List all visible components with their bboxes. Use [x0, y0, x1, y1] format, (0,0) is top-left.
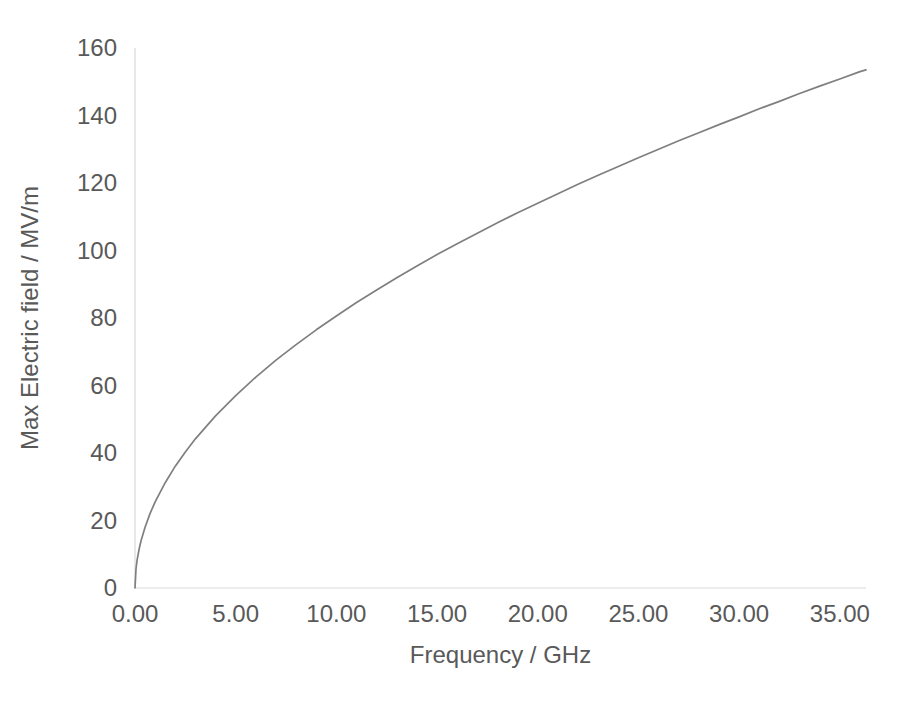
y-axis-title: Max Electric field / MV/m [16, 186, 43, 450]
x-axis-tick-label: 0.00 [112, 600, 159, 627]
y-axis-tick-label: 100 [77, 237, 117, 264]
x-axis-tick-label: 30.00 [709, 600, 769, 627]
x-axis-title: Frequency / GHz [410, 641, 591, 668]
y-axis-tick-label: 40 [90, 439, 117, 466]
x-axis-tick-label: 15.00 [407, 600, 467, 627]
x-axis-tick-label: 20.00 [508, 600, 568, 627]
y-axis-tick-label: 0 [104, 574, 117, 601]
chart-background [0, 0, 915, 703]
chart-container: 020406080100120140160 0.005.0010.0015.00… [0, 0, 915, 703]
y-axis-tick-label: 60 [90, 372, 117, 399]
y-axis-tick-label: 20 [90, 507, 117, 534]
y-axis-tick-label: 160 [77, 34, 117, 61]
y-axis-tick-label: 80 [90, 304, 117, 331]
line-chart: 020406080100120140160 0.005.0010.0015.00… [0, 0, 915, 703]
y-axis-tick-label: 120 [77, 169, 117, 196]
y-axis-tick-label: 140 [77, 102, 117, 129]
x-axis-tick-label: 25.00 [608, 600, 668, 627]
x-axis-tick-label: 10.00 [306, 600, 366, 627]
x-axis-tick-label: 5.00 [212, 600, 259, 627]
x-axis-tick-label: 35.00 [810, 600, 870, 627]
